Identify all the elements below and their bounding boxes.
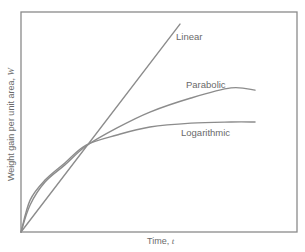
label-parabolic: Parabolic — [186, 79, 226, 90]
curve-parabolic — [21, 88, 255, 232]
curve-linear — [21, 24, 180, 232]
label-logarithmic: Logarithmic — [181, 127, 230, 138]
x-axis-label: Time, t — [147, 236, 175, 246]
y-axis-label: Weight gain per unit area, W — [6, 67, 16, 181]
chart: Linear Parabolic Logarithmic Time, t Wei… — [0, 0, 305, 252]
y-axis-label-text: Weight gain per unit area, W — [6, 67, 16, 181]
curve-logarithmic — [21, 122, 255, 232]
label-linear: Linear — [176, 31, 202, 42]
x-axis-label-text: Time, t — [147, 236, 175, 246]
